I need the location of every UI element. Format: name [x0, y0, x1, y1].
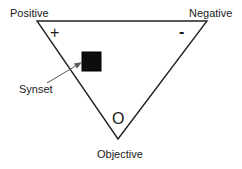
synset-label: Synset [19, 84, 53, 95]
synset-annotation-arrow [47, 63, 82, 84]
vertex-label-positive: Positive [10, 8, 49, 19]
vertex-label-objective: Objective [97, 149, 143, 160]
positive-sign-symbol: + [50, 25, 59, 41]
synset-marker [82, 52, 101, 71]
negative-sign-symbol: - [179, 24, 184, 40]
vertex-label-negative: Negative [189, 8, 232, 19]
diagram-canvas: Positive Negative Objective + - O Synset [0, 0, 242, 169]
objective-origin-symbol: O [112, 111, 124, 127]
